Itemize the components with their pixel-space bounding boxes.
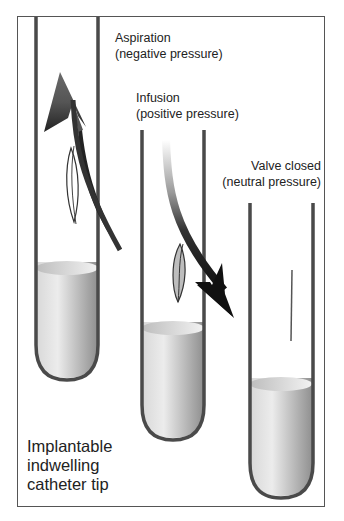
panel-subtitle: (neutral pressure) [221,174,321,190]
caption-line: Implantable [27,437,112,456]
panel-title: Aspiration [115,30,223,46]
caption-line: indwelling [27,456,112,475]
panel-subtitle: (negative pressure) [115,46,223,62]
panel-label-aspiration: Aspiration (negative pressure) [115,30,223,62]
tube-valve-closed [250,203,313,498]
caption-line: catheter tip [27,475,112,494]
panel-title: Valve closed [221,158,321,174]
aspiration-arrow-icon [44,72,120,250]
tube-aspiration [36,17,98,380]
panel-subtitle: (positive pressure) [136,106,239,122]
panel-label-infusion: Infusion (positive pressure) [136,90,239,122]
figure-caption: Implantable indwelling catheter tip [27,437,112,494]
panel-title: Infusion [136,90,239,106]
panel-label-valve-closed: Valve closed (neutral pressure) [221,158,321,190]
closed-valve-slit [291,270,292,341]
